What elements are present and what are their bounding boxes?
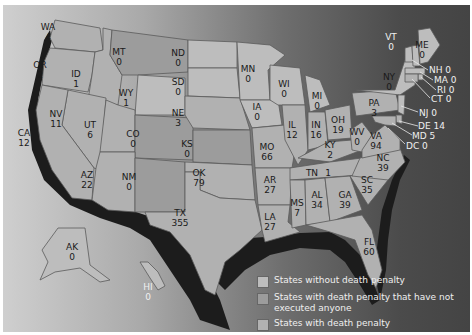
label-ok: OK79 (193, 168, 207, 188)
label-hi: HI0 (143, 282, 152, 302)
label-tn-value: 1 (325, 168, 331, 178)
legend-label: States without death penalty (274, 275, 405, 286)
label-la: LA27 (264, 212, 276, 232)
state-de[interactable] (396, 115, 402, 124)
label-ar: AR27 (264, 175, 276, 195)
callout-nj: NJ 0 (419, 108, 437, 118)
legend: States without death penalty States with… (257, 275, 467, 332)
state-nd[interactable] (188, 40, 237, 68)
legend-item-death-penalty: States with death penalty (257, 318, 467, 331)
label-oh: OH19 (331, 115, 345, 135)
legend-item-no-death-penalty: States without death penalty (257, 275, 467, 288)
state-ri[interactable] (418, 74, 423, 80)
state-nm[interactable] (135, 158, 185, 212)
label-ga: GA39 (338, 190, 352, 210)
callout-ma: MA 0 (434, 75, 457, 85)
state-sd[interactable] (188, 68, 240, 98)
label-va: VA94 (370, 131, 383, 151)
label-ny: NY0 (383, 72, 396, 92)
legend-swatch (257, 293, 269, 305)
legend-label: States with death penalty (274, 318, 390, 329)
callout-ct: CT 0 (431, 94, 452, 104)
label-mo: MO66 (260, 142, 275, 162)
state-wa[interactable] (50, 20, 103, 52)
legend-item-no-executions: States with death penalty that have not … (257, 292, 467, 314)
label-tn: TN (305, 168, 318, 178)
label-in: IN16 (310, 120, 322, 140)
label-ca: CA12 (18, 128, 31, 148)
legend-label: States with death penalty that have not … (274, 292, 467, 314)
label-vt: VT0 (385, 32, 397, 52)
state-ct[interactable] (405, 74, 418, 82)
label-nc: NC39 (376, 153, 389, 173)
label-nv: NV11 (50, 109, 64, 129)
callout-de: DE 14 (418, 121, 445, 131)
state-ks[interactable] (193, 130, 252, 165)
state-ak[interactable] (40, 228, 110, 282)
label-az: AZ22 (81, 170, 93, 190)
callout-dc: DC 0 (406, 141, 428, 151)
map-frame: WA4 OR2 ID1 MT0 ND0 SD0 WY1 NE3 NV11 UT6… (3, 5, 470, 332)
state-nj[interactable] (398, 95, 405, 115)
label-al: AL34 (311, 190, 323, 210)
label-sc: SC35 (361, 175, 373, 195)
label-fl: FL60 (363, 237, 375, 257)
legend-swatch (257, 276, 269, 288)
callout-nh: NH 0 (429, 65, 451, 75)
leader-md (392, 123, 412, 135)
state-or[interactable] (42, 48, 95, 92)
label-wy: WY1 (119, 88, 134, 108)
legend-swatch (257, 319, 269, 331)
callout-md: MD 5 (412, 131, 435, 141)
leader-ct (412, 79, 430, 98)
